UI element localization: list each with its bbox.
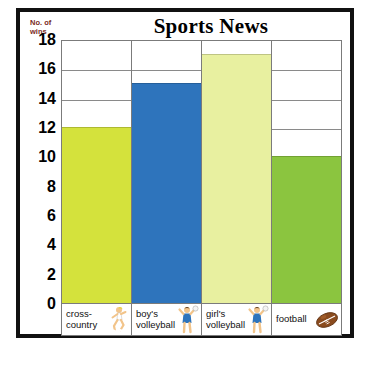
bar-cell: [62, 41, 132, 303]
bar[interactable]: [62, 127, 131, 303]
x-axis-category[interactable]: cross- country: [62, 304, 132, 335]
volleyball-player-icon: [174, 305, 200, 335]
y-axis: 18161412108642: [28, 40, 60, 304]
football-icon: [314, 305, 340, 335]
x-axis-category-label: girl's volleyball: [206, 309, 245, 331]
bar-cell: [202, 41, 272, 303]
y-tick-4: 4: [47, 236, 56, 254]
y-tick-6: 6: [47, 207, 56, 225]
y-tick-8: 8: [47, 178, 56, 196]
chart-poster: No. of wins Sports News 18161412108642 0…: [16, 8, 354, 338]
y-tick-12: 12: [38, 119, 56, 137]
y-tick-2: 2: [47, 266, 56, 284]
x-axis-labels: cross- countryboy's volleyballgirl's vol…: [61, 304, 342, 336]
y-tick-10: 10: [38, 148, 56, 166]
volleyball-player-icon: [244, 305, 270, 335]
y-tick-16: 16: [38, 60, 56, 78]
runner-icon: [104, 305, 130, 335]
plot-wrapper: 18161412108642 0 cross- countryboy's vol…: [28, 40, 342, 328]
x-axis-category[interactable]: football: [272, 304, 341, 335]
bar-cell: [272, 41, 341, 303]
bar[interactable]: [272, 156, 341, 303]
bar[interactable]: [202, 54, 271, 303]
x-axis-category-label: cross- country: [66, 309, 97, 331]
plot-area: [61, 40, 342, 304]
x-axis-category[interactable]: girl's volleyball: [202, 304, 272, 335]
bar-cell: [132, 41, 202, 303]
bar[interactable]: [132, 83, 201, 303]
y-tick-zero: 0: [28, 295, 56, 313]
x-axis-category[interactable]: boy's volleyball: [132, 304, 202, 335]
bar-series: [62, 41, 341, 303]
y-tick-14: 14: [38, 90, 56, 108]
chart-title: Sports News: [80, 14, 342, 39]
x-axis-category-label: boy's volleyball: [136, 309, 175, 331]
x-axis-category-label: football: [276, 314, 307, 325]
y-tick-18: 18: [38, 31, 56, 49]
